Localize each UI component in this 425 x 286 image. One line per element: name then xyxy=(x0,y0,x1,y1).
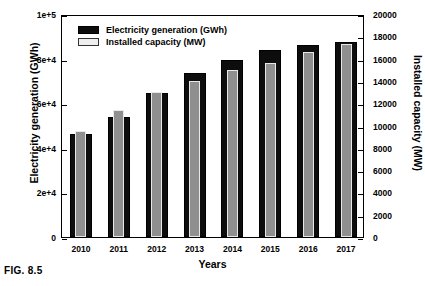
y-axis-right-tick-label: 16000 xyxy=(373,55,419,65)
y-axis-right-tick-label: 4000 xyxy=(373,188,419,198)
legend-swatch-capacity-icon xyxy=(78,38,99,46)
y-axis-left-tick xyxy=(62,150,67,151)
bar-installed-capacity xyxy=(75,131,86,237)
legend-item-capacity: Installed capacity (MW) xyxy=(78,37,227,47)
y-axis-left-tick xyxy=(62,239,67,240)
plot-area: 02e+44e+46e+48e+41e+5 020004000600080001… xyxy=(61,15,364,238)
x-axis-tick-label: 2010 xyxy=(61,244,101,254)
y-axis-right-tick-label: 10000 xyxy=(373,122,419,132)
bar-installed-capacity xyxy=(189,81,200,237)
y-axis-right-tick xyxy=(358,83,363,84)
x-axis-tick-label: 2012 xyxy=(137,244,177,254)
bar-installed-capacity xyxy=(151,92,162,237)
bar-installed-capacity xyxy=(303,52,314,237)
y-axis-left-tick xyxy=(62,105,67,106)
x-axis-tick-label: 2013 xyxy=(175,244,215,254)
y-axis-left-tick-label: 2e+4 xyxy=(10,188,56,198)
y-axis-right-title: Installed capacity (MW) xyxy=(412,13,424,213)
figure-caption: FIG. 8.5 xyxy=(4,265,43,276)
y-axis-right-tick xyxy=(358,105,363,106)
y-axis-right-tick-label: 8000 xyxy=(373,144,419,154)
x-axis-tick-label: 2011 xyxy=(99,244,139,254)
y-axis-left-tick-label: 1e+5 xyxy=(10,10,56,20)
x-axis-title: Years xyxy=(60,258,365,270)
y-axis-right-tick-label: 6000 xyxy=(373,166,419,176)
y-axis-right-tick xyxy=(358,194,363,195)
y-axis-right-tick xyxy=(358,128,363,129)
legend-label-capacity: Installed capacity (MW) xyxy=(106,37,206,47)
y-axis-left-tick-label: 4e+4 xyxy=(10,144,56,154)
figure-container: Electricity generation (GWh) Installed c… xyxy=(0,0,425,286)
y-axis-left-tick-label: 8e+4 xyxy=(10,55,56,65)
legend-label-generation: Electricity generation (GWh) xyxy=(106,25,227,35)
y-axis-right-tick xyxy=(358,172,363,173)
y-axis-left-tick-label: 0 xyxy=(10,233,56,243)
y-axis-left-tick xyxy=(62,61,67,62)
bar-group xyxy=(335,14,357,237)
legend-item-generation: Electricity generation (GWh) xyxy=(78,25,227,35)
legend-swatch-generation-icon xyxy=(78,26,99,34)
y-axis-right-tick-label: 0 xyxy=(373,233,419,243)
y-axis-right-tick xyxy=(358,16,363,17)
y-axis-right-tick-label: 18000 xyxy=(373,32,419,42)
y-axis-right-tick xyxy=(358,217,363,218)
y-axis-right-tick-label: 20000 xyxy=(373,10,419,20)
y-axis-right-tick-label: 14000 xyxy=(373,77,419,87)
bar-installed-capacity xyxy=(113,110,124,237)
y-axis-left-tick-label: 6e+4 xyxy=(10,99,56,109)
x-axis-tick-label: 2015 xyxy=(250,244,290,254)
y-axis-right-tick-label: 2000 xyxy=(373,211,419,221)
x-axis-tick-label: 2014 xyxy=(212,244,252,254)
y-axis-right-tick xyxy=(358,38,363,39)
bar-group xyxy=(297,14,319,237)
bar-installed-capacity xyxy=(341,44,352,237)
y-axis-left-tick xyxy=(62,194,67,195)
x-axis-tick-label: 2016 xyxy=(288,244,328,254)
bar-installed-capacity xyxy=(265,63,276,237)
y-axis-right-tick-label: 12000 xyxy=(373,99,419,109)
y-axis-right-tick xyxy=(358,150,363,151)
y-axis-right-tick xyxy=(358,61,363,62)
bar-installed-capacity xyxy=(227,70,238,237)
x-axis-tick-label: 2017 xyxy=(326,244,366,254)
y-axis-left-title: Electricity generation (GWh) xyxy=(28,13,40,213)
y-axis-right-tick xyxy=(358,239,363,240)
bar-group xyxy=(259,14,281,237)
y-axis-left-tick xyxy=(62,16,67,17)
chart-legend: Electricity generation (GWh) Installed c… xyxy=(78,25,227,49)
